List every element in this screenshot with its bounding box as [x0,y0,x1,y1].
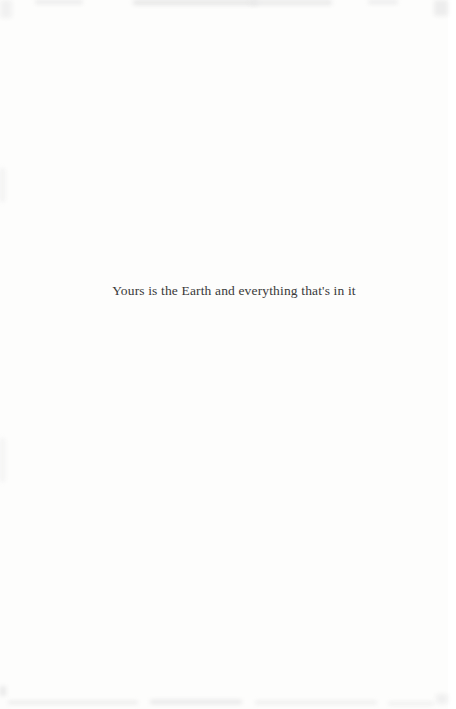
scan-smudge-bottom [8,701,138,704]
scan-smudge-top-right-corner [434,0,448,16]
scan-smudge-top-left-corner [0,0,12,18]
scan-smudge-top [35,0,83,4]
scan-smudge-left-edge [0,438,5,482]
scan-smudge-top [133,0,258,5]
scan-smudge-top [250,0,332,5]
scan-smudge-left-edge [0,168,5,202]
scan-smudge-bottom [150,700,242,704]
scan-smudge-top [368,0,398,4]
scan-smudge-bottom [388,702,434,705]
epigraph-quote-text: Yours is the Earth and everything that's… [10,283,456,299]
scan-smudge-bottom-right-corner [436,694,448,704]
scan-smudge-bottom [255,701,377,704]
scan-smudge-left-edge [0,686,6,696]
